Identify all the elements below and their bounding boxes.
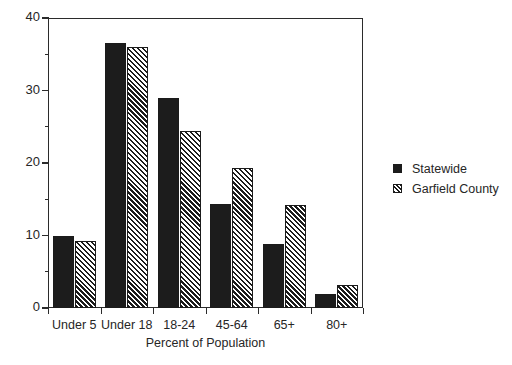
x-axis-tick-label: 18-24 <box>163 318 195 332</box>
bar <box>53 236 74 309</box>
legend-label: Garfield County <box>412 182 499 196</box>
y-axis-tick-label: 0 <box>14 299 40 314</box>
x-axis-title: Percent of Population <box>146 336 266 350</box>
legend-item-statewide: Statewide <box>393 160 499 177</box>
y-axis-tick-label: 40 <box>14 9 40 24</box>
x-axis-tick-label: 65+ <box>274 318 295 332</box>
x-axis-tick <box>206 308 207 314</box>
x-axis-tick-label: 45-64 <box>216 318 248 332</box>
solid-square-icon <box>393 164 402 173</box>
bar <box>180 131 201 308</box>
y-axis-tick-label: 10 <box>14 227 40 242</box>
x-axis-tick <box>311 308 312 314</box>
x-axis-tick-label: 80+ <box>326 318 347 332</box>
bar <box>285 205 306 308</box>
legend-item-garfield-county: Garfield County <box>393 180 499 197</box>
chart-legend: Statewide Garfield County <box>393 160 499 200</box>
bar <box>158 98 179 308</box>
x-axis-tick <box>48 308 49 314</box>
x-axis-tick <box>363 308 364 314</box>
bar <box>232 168 253 308</box>
bar <box>127 47 148 308</box>
x-axis-tick <box>153 308 154 314</box>
x-axis-tick <box>101 308 102 314</box>
y-axis-tick-label: 30 <box>14 82 40 97</box>
x-axis-tick-label: Under 5 <box>52 318 96 332</box>
bar <box>75 241 96 308</box>
bar <box>105 43 126 308</box>
bar <box>315 294 336 309</box>
legend-label: Statewide <box>412 162 467 176</box>
bar <box>337 285 358 308</box>
bars-layer <box>48 18 363 308</box>
hatched-square-icon <box>393 184 402 193</box>
x-axis-tick <box>258 308 259 314</box>
x-axis-tick-label: Under 18 <box>101 318 152 332</box>
bar-chart: 010203040 Under 5Under 1818-2445-6465+80… <box>0 0 512 365</box>
bar <box>210 204 231 308</box>
bar <box>263 244 284 308</box>
y-axis-tick-label: 20 <box>14 154 40 169</box>
